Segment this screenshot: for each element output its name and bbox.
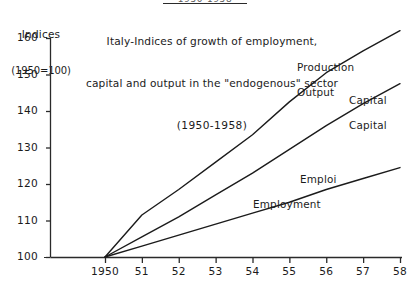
x-axis-tick-label: 58 bbox=[393, 265, 407, 277]
x-axis-tick-label: 53 bbox=[209, 265, 223, 277]
y-axis-tick-label: 130 bbox=[4, 141, 38, 153]
y-axis-tick-label: 160 bbox=[4, 31, 38, 43]
y-axis-tick-label: 140 bbox=[4, 104, 38, 116]
y-axis-tick-label: 110 bbox=[4, 214, 38, 226]
series-line-capital bbox=[105, 84, 400, 257]
plot-area bbox=[0, 0, 410, 285]
x-axis-tick-label: 54 bbox=[245, 265, 259, 277]
series-line-emploi-employment bbox=[105, 168, 400, 257]
x-axis-tick-label: 57 bbox=[356, 265, 370, 277]
series-polylines bbox=[105, 31, 400, 257]
series-line-production-output bbox=[105, 31, 400, 257]
y-axis-ticks bbox=[46, 39, 51, 258]
y-axis-tick-label: 100 bbox=[4, 250, 38, 262]
y-axis-tick-label: 120 bbox=[4, 177, 38, 189]
y-axis-tick-label: 150 bbox=[4, 68, 38, 80]
x-axis-tick-label: 52 bbox=[172, 265, 186, 277]
chart-figure: 1950-1958 Indices (1950=100) Italy-Indic… bbox=[0, 0, 410, 285]
x-axis-tick-label: 1950 bbox=[91, 265, 119, 277]
x-axis-tick-label: 56 bbox=[319, 265, 333, 277]
x-axis-tick-label: 51 bbox=[135, 265, 149, 277]
x-axis-ticks bbox=[106, 258, 401, 264]
x-axis-tick-label: 55 bbox=[282, 265, 296, 277]
